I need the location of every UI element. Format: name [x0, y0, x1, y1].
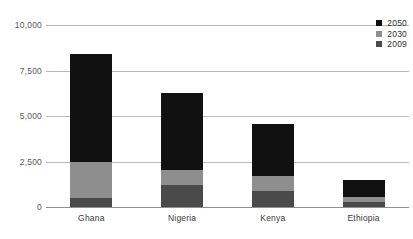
x-axis-label: Ethiopia: [318, 213, 409, 223]
y-tick-label: 2,500: [0, 157, 42, 167]
y-axis: 10,000 7,500 5,000 2,500 0: [0, 25, 42, 207]
bar-segment[interactable]: [343, 180, 385, 197]
bar-segment[interactable]: [252, 176, 294, 191]
legend-swatch-icon: [376, 31, 382, 37]
bar-segment[interactable]: [161, 93, 203, 169]
y-tick-label: 5,000: [0, 111, 42, 121]
bar-segment[interactable]: [252, 191, 294, 207]
bar-segment[interactable]: [252, 124, 294, 176]
stacked-bar-chart: 10,000 7,500 5,000 2,500 0 GhanaNigeriaK…: [0, 0, 413, 239]
legend-swatch-icon: [376, 41, 382, 47]
bar-segment[interactable]: [70, 162, 112, 198]
bar-stack: [161, 93, 203, 207]
bar-stack: [252, 124, 294, 207]
bar-segment[interactable]: [343, 202, 385, 207]
plot-area: [46, 25, 409, 207]
bar-group[interactable]: [70, 25, 112, 207]
scan-edge: [0, 0, 413, 3]
bar-segment[interactable]: [70, 198, 112, 207]
bars-layer: [46, 25, 409, 207]
bar-group[interactable]: [161, 25, 203, 207]
y-tick-label: 0: [0, 202, 42, 212]
y-tick-label: 10,000: [0, 20, 42, 30]
legend-item[interactable]: 2030: [376, 30, 407, 39]
legend-swatch-icon: [376, 20, 382, 26]
legend-item[interactable]: 2050: [376, 19, 407, 28]
bar-group[interactable]: [343, 25, 385, 207]
bar-stack: [70, 54, 112, 207]
legend-label: 2009: [387, 40, 407, 49]
y-tick-label: 7,500: [0, 66, 42, 76]
bar-segment[interactable]: [161, 185, 203, 207]
bar-segment[interactable]: [70, 54, 112, 161]
gridline: [46, 207, 409, 208]
bar-stack: [343, 180, 385, 207]
bar-segment[interactable]: [161, 170, 203, 185]
x-axis-label: Nigeria: [137, 213, 228, 223]
legend: 205020302009: [376, 19, 407, 49]
x-axis-label: Kenya: [228, 213, 319, 223]
legend-item[interactable]: 2009: [376, 40, 407, 49]
legend-label: 2050: [387, 19, 407, 28]
x-axis-label: Ghana: [46, 213, 137, 223]
legend-label: 2030: [387, 30, 407, 39]
bar-group[interactable]: [252, 25, 294, 207]
